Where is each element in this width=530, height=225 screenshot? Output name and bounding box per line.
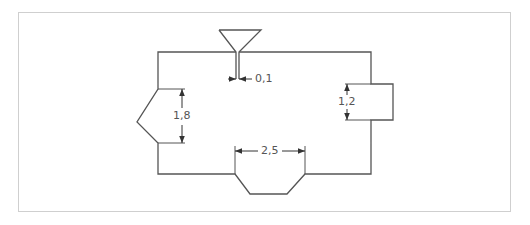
part-drawing bbox=[0, 0, 530, 225]
bottom-notch-width-label: 2,5 bbox=[260, 145, 280, 157]
left-notch-height-label: 1,8 bbox=[172, 110, 192, 122]
right-boss-height-label: 1,2 bbox=[337, 96, 357, 108]
diagram-canvas: 0,1 1,8 1,2 2,5 bbox=[0, 0, 530, 225]
gate-width-label: 0,1 bbox=[254, 73, 274, 85]
